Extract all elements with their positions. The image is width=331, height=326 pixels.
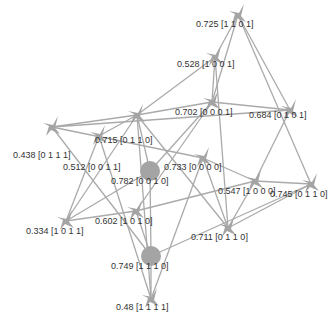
node-label: 0.438 [0 1 1 1]: [13, 150, 71, 160]
edge: [238, 15, 311, 184]
edge-layer: [52, 15, 311, 299]
node-label: 0.684 [0 1 0 1]: [249, 110, 307, 120]
node-label: 0.749 [1 1 1 0]: [111, 261, 169, 271]
node-label: 0.547 [1 0 0 0]: [218, 186, 276, 196]
node-label: 0.334 [1 0 1 1]: [26, 226, 84, 236]
edge: [52, 127, 151, 256]
node-label: 0.711 [0 1 1 0]: [191, 232, 248, 242]
node-label: 0.528 [1 0 0 1]: [177, 59, 235, 69]
node-label: 0.512 [0 0 1 1]: [63, 162, 121, 172]
node-label: 0.782 [0 0 1 0]: [111, 176, 169, 186]
edge: [238, 15, 290, 110]
node-label: 0.725 [1 1 0 1]: [196, 19, 254, 29]
edge: [255, 181, 311, 184]
node-label: 0.702 [0 0 0 1]: [175, 107, 233, 117]
node-label: 0.602 [1 0 1 0]: [95, 216, 153, 226]
edge: [52, 115, 137, 127]
network-graph: 0.725 [1 1 0 1]0.528 [1 0 0 1]0.702 [0 0…: [0, 0, 331, 326]
edge: [255, 110, 290, 181]
node-label: 0.733 [0 0 0 0]: [164, 162, 222, 172]
label-layer: 0.725 [1 1 0 1]0.528 [1 0 0 1]0.702 [0 0…: [13, 19, 328, 312]
node-label: 0.745 [0 1 1 0]: [270, 189, 328, 199]
node-layer: [43, 4, 319, 308]
node-label: 0.48 [1 1 1 1]: [116, 302, 169, 312]
node-label: 0.715 [0 1 1 0]: [95, 135, 153, 145]
edge: [215, 57, 228, 228]
